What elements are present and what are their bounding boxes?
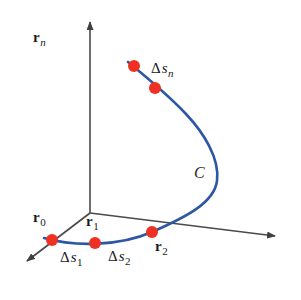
label-ds1-subscript: 1 xyxy=(77,256,83,268)
label-r0-subscript: 0 xyxy=(40,216,46,228)
point-r0 xyxy=(46,234,58,246)
point-r1 xyxy=(89,237,101,249)
label-ds1-variable: s xyxy=(71,249,77,265)
label-r1: r1 xyxy=(86,214,99,232)
curve-path xyxy=(44,62,217,244)
partition-points xyxy=(46,60,161,249)
label-r1-symbol: r xyxy=(86,213,93,229)
label-delta-s-2: Δs2 xyxy=(108,249,131,267)
point-rn-next xyxy=(149,82,161,94)
label-r2-symbol: r xyxy=(155,238,162,254)
label-delta-s-1: Δs1 xyxy=(60,250,83,268)
label-r2: r2 xyxy=(155,239,168,257)
label-dsn-delta: Δ xyxy=(151,60,161,76)
point-r2 xyxy=(146,226,158,238)
point-rn xyxy=(128,60,140,72)
label-rn-symbol: r xyxy=(33,29,40,45)
label-r0: r0 xyxy=(33,210,46,228)
label-r1-subscript: 1 xyxy=(93,220,99,232)
label-ds2-subscript: 2 xyxy=(125,255,131,267)
label-ds1-delta: Δ xyxy=(60,249,70,265)
label-ds2-variable: s xyxy=(119,248,125,264)
label-rn: rn xyxy=(33,30,46,48)
curve-c xyxy=(44,62,217,244)
label-ds2-delta: Δ xyxy=(108,248,118,264)
vector-calculus-figure: rn r0 r1 r2 Δsn Δs1 Δs2 C xyxy=(0,0,301,300)
label-r0-symbol: r xyxy=(33,209,40,225)
label-delta-s-n: Δsn xyxy=(151,61,174,79)
label-dsn-subscript: n xyxy=(168,67,174,79)
label-dsn-variable: s xyxy=(162,60,168,76)
label-r2-subscript: 2 xyxy=(162,245,168,257)
label-rn-subscript: n xyxy=(40,36,46,48)
label-curve-c: C xyxy=(194,165,205,181)
axes-group xyxy=(27,22,275,261)
